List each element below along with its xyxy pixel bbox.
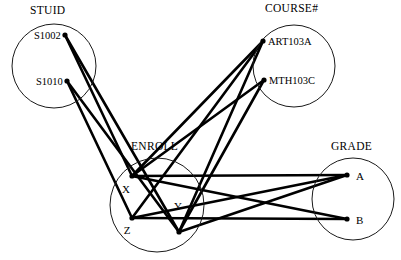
node-dot-x bbox=[129, 173, 134, 178]
edge-x-art103a bbox=[132, 41, 263, 176]
node-dot-a bbox=[344, 172, 349, 177]
set-title-grade: GRADE bbox=[331, 140, 372, 152]
node-label-z: Z bbox=[124, 224, 131, 236]
edge-s1010-y bbox=[67, 81, 179, 232]
node-label-y: Y bbox=[174, 200, 182, 212]
node-dot-mth103c bbox=[261, 77, 266, 82]
edge-x-a bbox=[132, 175, 347, 176]
node-label-s1010: S1010 bbox=[36, 76, 63, 87]
node-dot-s1002 bbox=[62, 32, 67, 37]
node-label-s1002: S1002 bbox=[34, 30, 61, 41]
edge-x-mth103c bbox=[132, 80, 264, 176]
node-dot-y bbox=[176, 229, 181, 234]
set-title-course: COURSE# bbox=[265, 2, 318, 14]
node-label-mth103c: MTH103C bbox=[269, 75, 315, 86]
node-label-art103a: ART103A bbox=[268, 36, 312, 47]
set-title-enroll: ENROLL bbox=[131, 140, 178, 152]
edge-s1002-y bbox=[65, 35, 179, 232]
node-label-x: X bbox=[122, 183, 130, 195]
network-model-diagram: STUIDS1002S1010COURSE#ART103AMTH103CENRO… bbox=[0, 0, 401, 260]
diagram-canvas: STUIDS1002S1010COURSE#ART103AMTH103CENRO… bbox=[0, 0, 401, 260]
edge-z-b bbox=[132, 218, 347, 219]
labels-layer: STUIDS1002S1010COURSE#ART103AMTH103CENRO… bbox=[30, 2, 372, 236]
set-title-stuid: STUID bbox=[30, 4, 65, 16]
node-label-b: B bbox=[356, 214, 363, 226]
node-dot-z bbox=[129, 215, 134, 220]
edge-y-mth103c bbox=[179, 80, 264, 232]
edges-layer bbox=[65, 35, 347, 232]
set-circle-grade bbox=[312, 158, 394, 240]
node-label-a: A bbox=[356, 170, 364, 182]
node-dot-art103a bbox=[260, 38, 265, 43]
node-dot-b bbox=[344, 216, 349, 221]
node-dot-s1010 bbox=[64, 78, 69, 83]
